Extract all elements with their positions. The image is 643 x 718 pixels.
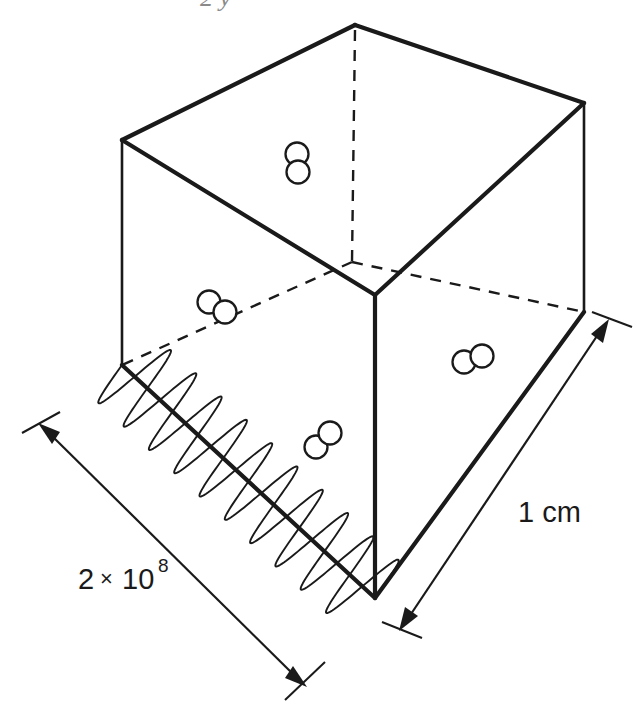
length-dim-tick-end [285, 662, 325, 700]
figure-root: 2 y [0, 0, 643, 718]
top-cut-caption: 2 y [200, 0, 232, 12]
edge-front-to-right [375, 103, 584, 295]
depth-dim-arrowhead-end [399, 607, 418, 631]
edge-right-to-top [355, 25, 584, 103]
length-dimension-label: 2 × 10 8 [78, 555, 169, 595]
hidden-edge-vertical [352, 30, 355, 262]
molecule-left-rear [198, 291, 237, 324]
length-label-mantissa: 2 [78, 563, 94, 595]
molecule-right-face-atom-2 [471, 345, 494, 368]
length-label-exponent: 8 [158, 555, 169, 576]
molecule-top-face-atom-2 [287, 161, 310, 184]
depth-dimension-label: 1 cm [518, 496, 581, 528]
molecule-left-rear-atom-2 [214, 301, 237, 324]
length-label-times: × [100, 566, 113, 591]
molecule-front-lower-atom-2 [319, 422, 342, 445]
edge-top-to-left [122, 25, 355, 140]
length-label-base: 10 [122, 563, 154, 595]
depth-dimension-arrow: 1 cm [382, 312, 632, 638]
edge-left-to-front [122, 140, 375, 295]
gas-molecules [198, 143, 494, 459]
molecule-right-face [453, 345, 494, 374]
molecule-front-lower [305, 422, 342, 459]
molecule-top-face [286, 143, 310, 184]
length-dim-line [48, 432, 297, 678]
cube-gas-diagram: 2 y [0, 0, 643, 718]
depth-dim-line [407, 330, 601, 620]
depth-dim-tick-start [592, 312, 632, 327]
